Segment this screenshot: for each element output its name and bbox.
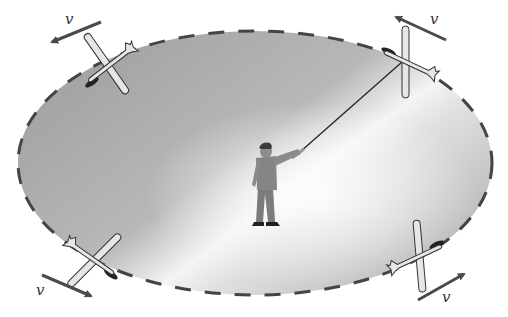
velocity-arrow-top-left: v: [52, 10, 101, 42]
velocity-label-top-left: v: [65, 10, 74, 28]
velocity-label-top-right: v: [430, 10, 439, 28]
velocity-label-bottom-right: v: [442, 288, 451, 306]
circular-flight-diagram: v v v v: [0, 0, 508, 317]
velocity-label-bottom-left: v: [36, 281, 45, 299]
velocity-arrow-bottom-left: v: [36, 275, 91, 299]
